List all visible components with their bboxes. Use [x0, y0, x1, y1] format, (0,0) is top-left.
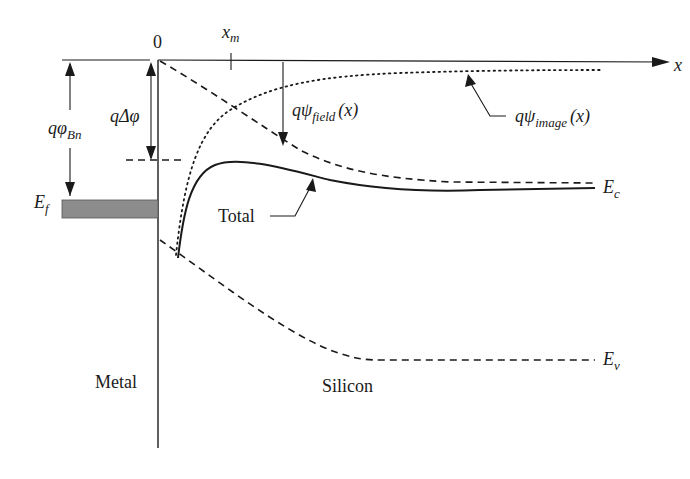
x-axis-label: x	[673, 55, 682, 75]
total-pointer-line	[270, 184, 312, 216]
barrier-lowering-label: qΔφ	[110, 106, 140, 126]
fermi-level-label: Ef	[33, 192, 51, 216]
xm-label: xm	[221, 22, 239, 45]
arrow-down-icon	[146, 146, 156, 160]
x-axis	[158, 60, 665, 62]
arrow-up-icon	[465, 74, 476, 87]
ev-label: Ev	[602, 349, 620, 373]
total-label: Total	[218, 206, 255, 226]
metal-label: Metal	[95, 372, 137, 392]
barrier-height-label: qφBn	[48, 118, 81, 142]
image-pointer-line	[470, 82, 506, 116]
silicon-label: Silicon	[322, 376, 373, 396]
valence-band-curve	[160, 240, 595, 360]
x-axis-arrow-icon	[652, 57, 670, 67]
schottky-band-diagram: x 0 xm qφBn qΔφ Ef Ec qψfield(x) qψimage…	[0, 0, 690, 479]
metal-fermi-block	[62, 200, 158, 218]
arrow-up-icon	[306, 178, 316, 192]
arrow-down-icon	[65, 182, 75, 196]
origin-label: 0	[153, 32, 162, 52]
arrow-up-icon	[65, 62, 75, 76]
field-potential-label: qψfield(x)	[292, 100, 358, 124]
arrow-down-icon	[278, 132, 288, 146]
arrow-up-icon	[146, 62, 156, 76]
image-potential-label: qψimage(x)	[515, 106, 590, 130]
ec-label: Ec	[602, 177, 620, 201]
